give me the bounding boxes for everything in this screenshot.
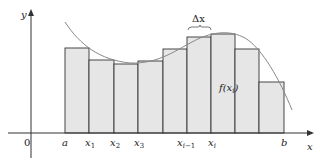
riemann-rectangle [89,60,114,133]
y-axis-arrow-icon [28,9,34,16]
y-axis-label: y [20,9,27,20]
riemann-rectangle [259,82,284,133]
riemann-rectangle [65,48,89,133]
riemann-rectangle [187,37,211,133]
tick-a: a [62,137,68,148]
riemann-rectangle [163,49,187,133]
riemann-rectangle [235,49,259,133]
rectangles [65,34,284,133]
x-axis-arrow-icon [307,130,314,136]
tick-x3: x3 [134,137,144,150]
riemann-rectangle [138,61,163,133]
tick-xi-1: xi−1 [177,137,195,150]
delta-x-brace [188,25,211,30]
tick-xi: xi [208,137,216,150]
tick-b: b [281,137,287,148]
riemann-sum-diagram: y x 0 a x1 x2 x3 xi−1 xi b Δx f(xi) [0,0,320,163]
x-axis-label: x [307,141,313,152]
tick-x1: x1 [85,137,95,150]
delta-x-label: Δx [192,13,205,24]
riemann-rectangle [114,64,138,133]
origin-label: 0 [24,137,30,148]
tick-x2: x2 [110,137,120,150]
